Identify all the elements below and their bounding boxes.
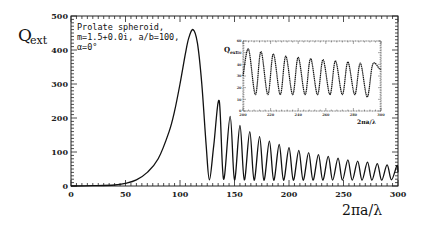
y-tick-label: 60 [237,39,242,43]
inset-x-axis-label: 2πa/λ [357,118,376,125]
x-tick-label: 50 [120,189,132,199]
annotation-line-3: α=0° [77,42,97,52]
y-tick-label: 500 [51,11,68,21]
y-axis-label-subscript: ext [30,34,48,47]
chart-figure: 0501001502002503000100200300400500 Q ext… [0,0,424,230]
y-tick-label: 30 [237,74,242,78]
x-tick-label: 260 [322,113,330,117]
x-tick-label: 300 [390,189,407,199]
annotation-line-1: Prolate spheroid, [77,22,164,32]
y-tick-label: 400 [51,45,68,55]
x-tick-label: 150 [226,189,243,199]
x-tick-label: 200 [239,113,247,117]
inset-background [243,41,381,111]
y-tick-label: 20 [237,86,242,90]
x-tick-label: 240 [295,113,303,117]
x-tick-label: 280 [350,113,358,117]
y-tick-label: 40 [237,63,242,67]
x-axis-label: 2πa/λ [342,202,382,218]
y-tick-label: 0 [62,181,68,191]
y-tick-label: 10 [237,98,242,102]
x-tick-label: 200 [281,189,298,199]
y-tick-label: 200 [51,113,68,123]
inset-y-axis-label-subscript: ext [230,50,239,55]
x-tick-label: 0 [68,189,74,199]
x-tick-label: 100 [172,189,189,199]
y-tick-label: 100 [51,147,68,157]
y-tick-label: 300 [51,79,68,89]
x-tick-label: 300 [377,113,385,117]
annotation-line-2: m=1.5+0.0i, a/b=100, [77,32,179,42]
x-tick-label: 250 [335,189,352,199]
x-tick-label: 220 [267,113,275,117]
